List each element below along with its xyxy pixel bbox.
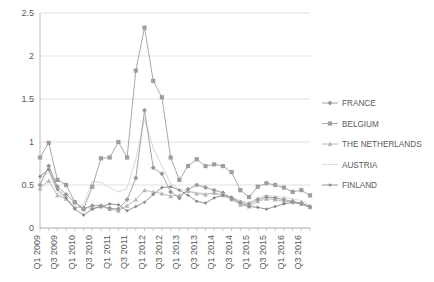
data-point — [47, 141, 51, 145]
y-axis-tick-label: 0 — [29, 223, 34, 233]
data-point — [282, 185, 286, 189]
y-axis-tick-label: 0.5 — [21, 180, 34, 190]
x-axis-tick-label: Q3 2015 — [258, 235, 268, 270]
data-point — [64, 183, 68, 187]
legend-marker — [328, 101, 333, 106]
data-point — [108, 155, 112, 159]
x-axis-tick-label: Q3 2010 — [84, 235, 94, 270]
x-axis-tick-labels: Q1 2009Q3 2009Q1 2010Q3 2010Q1 2011Q3 20… — [32, 235, 303, 270]
chart-legend: FRANCEBELGIUMTHE NETHERLANDSAUSTRIAFINLA… — [322, 99, 422, 190]
series-belgium — [38, 26, 312, 212]
data-point — [308, 193, 312, 197]
data-point — [116, 140, 120, 144]
data-point — [256, 206, 260, 210]
x-axis-tick-label: Q1 2013 — [171, 235, 181, 270]
data-point — [133, 176, 138, 181]
data-point — [151, 79, 155, 83]
data-point — [142, 108, 147, 113]
x-axis-tick-label: Q1 2012 — [137, 235, 147, 270]
data-point — [46, 178, 51, 182]
x-axis-tick-label: Q3 2011 — [119, 235, 129, 269]
y-axis-tick-label: 1 — [29, 137, 34, 147]
legend-item-france[interactable]: FRANCE — [322, 99, 376, 108]
x-axis-tick-label: Q3 2016 — [293, 235, 303, 270]
data-point — [125, 155, 129, 159]
data-point — [125, 203, 130, 207]
data-point — [73, 200, 77, 204]
data-point — [264, 181, 268, 185]
x-axis-tick-label: Q1 2014 — [206, 235, 216, 270]
data-point — [203, 185, 208, 190]
legend-label: AUSTRIA — [342, 161, 378, 170]
data-point — [273, 205, 277, 209]
x-axis-tick-label: Q1 2015 — [241, 235, 251, 270]
data-point — [142, 188, 147, 192]
y-axis-tick-label: 1.5 — [21, 94, 34, 104]
legend-item-belgium[interactable]: BELGIUM — [322, 120, 379, 129]
x-axis-tick-label: Q1 2011 — [102, 235, 112, 269]
legend-label: FINLAND — [342, 181, 377, 190]
data-point — [177, 178, 181, 182]
data-point — [203, 164, 207, 168]
data-point — [107, 206, 112, 211]
data-point — [299, 188, 303, 192]
data-point — [186, 164, 190, 168]
data-point — [46, 164, 51, 169]
data-point — [142, 26, 146, 30]
legend-item-finland[interactable]: FINLAND — [322, 181, 377, 190]
legend-label: THE NETHERLANDS — [342, 140, 422, 149]
data-point — [238, 188, 242, 192]
data-point — [134, 69, 138, 73]
legend-label: FRANCE — [342, 99, 376, 108]
data-point — [212, 188, 217, 193]
x-axis-tick-label: Q1 2010 — [67, 235, 77, 270]
x-axis-tick-label: Q1 2016 — [276, 235, 286, 270]
data-point — [256, 185, 260, 189]
y-axis-tick-labels: 00.511.522.5 — [21, 8, 34, 233]
chart-container: 00.511.522.5 Q1 2009Q3 2009Q1 2010Q3 201… — [0, 0, 434, 282]
legend-label: BELGIUM — [342, 120, 379, 129]
data-point — [247, 195, 251, 199]
data-point — [90, 185, 94, 189]
legend-item-austria[interactable]: AUSTRIA — [322, 161, 378, 170]
y-axis-tick-label: 2.5 — [21, 8, 34, 18]
data-point — [273, 183, 277, 187]
x-axis-tick-label: Q3 2009 — [49, 235, 59, 270]
data-point — [265, 207, 269, 211]
data-point — [38, 155, 42, 159]
series-finland — [38, 168, 312, 217]
legend-item-the-netherlands[interactable]: THE NETHERLANDS — [322, 140, 422, 149]
x-axis-tick-label: Q3 2012 — [154, 235, 164, 270]
data-point — [81, 207, 85, 211]
data-point — [90, 203, 95, 208]
x-axis-tick-label: Q1 2009 — [32, 235, 42, 270]
legend-marker — [328, 121, 332, 125]
data-point — [169, 185, 173, 189]
y-axis-tick-label: 2 — [29, 51, 34, 61]
line-chart: 00.511.522.5 Q1 2009Q3 2009Q1 2010Q3 201… — [0, 0, 434, 282]
series-line — [40, 170, 310, 216]
series-line — [40, 110, 310, 209]
data-point — [160, 95, 164, 99]
x-axis-tick-label: Q3 2013 — [189, 235, 199, 270]
data-point — [169, 155, 173, 159]
x-axis-tick-label: Q3 2014 — [224, 235, 234, 270]
data-point — [230, 170, 234, 174]
data-point — [55, 178, 59, 182]
data-point — [99, 156, 103, 160]
data-point — [221, 164, 225, 168]
data-point — [195, 157, 199, 161]
data-point — [194, 183, 199, 188]
data-point — [108, 202, 112, 206]
data-point — [134, 205, 138, 209]
data-point — [212, 162, 216, 166]
series-line — [40, 28, 310, 209]
data-point — [290, 190, 294, 194]
data-series-group — [38, 26, 313, 217]
legend-marker — [328, 183, 332, 187]
